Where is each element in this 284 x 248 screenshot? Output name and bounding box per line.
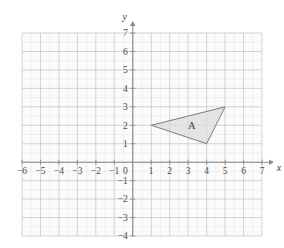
x-tick-label: 3 bbox=[186, 166, 191, 176]
figure-canvas: A −6−5−4−3−2−11234567−4−3−2−112345670 xy bbox=[0, 0, 284, 248]
x-tick-label: −2 bbox=[91, 166, 101, 176]
x-tick-label: 6 bbox=[241, 166, 246, 176]
x-tick-label: −1 bbox=[109, 166, 119, 176]
x-tick-label: 5 bbox=[223, 166, 228, 176]
y-tick-label: 5 bbox=[123, 65, 128, 75]
x-tick-label: −3 bbox=[72, 166, 82, 176]
y-tick-label: 2 bbox=[123, 121, 128, 131]
y-tick-label: 1 bbox=[123, 139, 128, 149]
x-axis-arrowhead bbox=[269, 159, 274, 165]
shape-label-a: A bbox=[188, 120, 196, 131]
x-tick-label: 2 bbox=[167, 166, 172, 176]
y-tick-label: −1 bbox=[118, 176, 128, 186]
x-tick-label: −5 bbox=[35, 166, 45, 176]
x-tick-label: −4 bbox=[54, 166, 64, 176]
y-tick-label: −2 bbox=[118, 194, 128, 204]
x-tick-label: 1 bbox=[149, 166, 154, 176]
origin-label: 0 bbox=[123, 166, 128, 176]
x-tick-label: 4 bbox=[204, 166, 209, 176]
y-axis-name: y bbox=[122, 11, 128, 22]
coordinate-plane: A −6−5−4−3−2−11234567−4−3−2−112345670 xy bbox=[0, 0, 284, 248]
x-axis-name: x bbox=[276, 162, 282, 173]
y-tick-label: 4 bbox=[123, 84, 128, 94]
x-tick-label: 7 bbox=[260, 166, 265, 176]
x-tick-label: −6 bbox=[17, 166, 27, 176]
y-tick-label: 7 bbox=[123, 28, 128, 38]
y-tick-label: 6 bbox=[123, 47, 128, 57]
y-axis-arrowhead bbox=[130, 21, 136, 26]
y-tick-label: −3 bbox=[118, 213, 128, 223]
y-tick-label: −4 bbox=[118, 231, 128, 241]
y-tick-label: 3 bbox=[123, 102, 128, 112]
